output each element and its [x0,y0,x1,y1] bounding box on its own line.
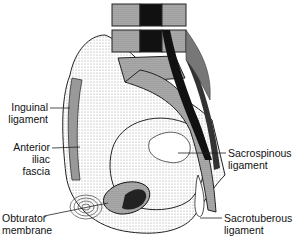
label-sacrospinous-ligament: Sacrospinous ligament [228,147,292,171]
label-obturator-membrane: Obturator membrane [2,212,52,236]
label-line: ligament [228,159,292,171]
label-line: fascia [0,165,50,177]
label-line: Inguinal [0,101,48,113]
label-line: membrane [2,224,52,236]
label-line: ligament [224,224,292,236]
label-line: Sacrotuberous [224,212,292,224]
label-inguinal-ligament: Inguinal ligament [0,101,48,125]
label-line: Obturator [2,212,52,224]
label-line: ligament [0,113,48,125]
label-line: iliac [0,153,50,165]
label-sacrotuberous-ligament: Sacrotuberous ligament [224,212,292,236]
label-line: Sacrospinous [228,147,292,159]
label-line: Anterior [0,141,50,153]
label-anterior-iliac-fascia: Anterior iliac fascia [0,141,50,177]
